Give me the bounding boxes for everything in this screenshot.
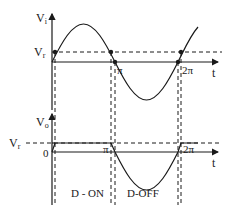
top-pi-tick: π xyxy=(117,64,123,76)
top-2pi-tick: 2π xyxy=(182,64,194,76)
diode-clipper-waveform-diagram: Vi Vr π 2π t Vo Vr 0 π 2π t D - ON D-OFF xyxy=(0,0,235,218)
top-vr-label: Vr xyxy=(34,45,46,60)
top-y-axis-label: Vi xyxy=(36,11,48,26)
bottom-vr-label: Vr xyxy=(9,136,21,151)
bottom-x-axis-label: t xyxy=(212,156,216,170)
bottom-pi-tick: π xyxy=(103,143,109,155)
region-label-d-on: D - ON xyxy=(71,187,104,199)
bottom-y-axis-label: Vo xyxy=(36,115,49,130)
top-x-axis-label: t xyxy=(212,66,216,80)
output-clipped-curve xyxy=(52,143,198,190)
region-label-d-off: D-OFF xyxy=(127,187,159,199)
bottom-zero-label: 0 xyxy=(43,147,49,159)
input-waveform-graph: Vi Vr π 2π t xyxy=(34,11,222,110)
bottom-2pi-tick: 2π xyxy=(183,143,195,155)
